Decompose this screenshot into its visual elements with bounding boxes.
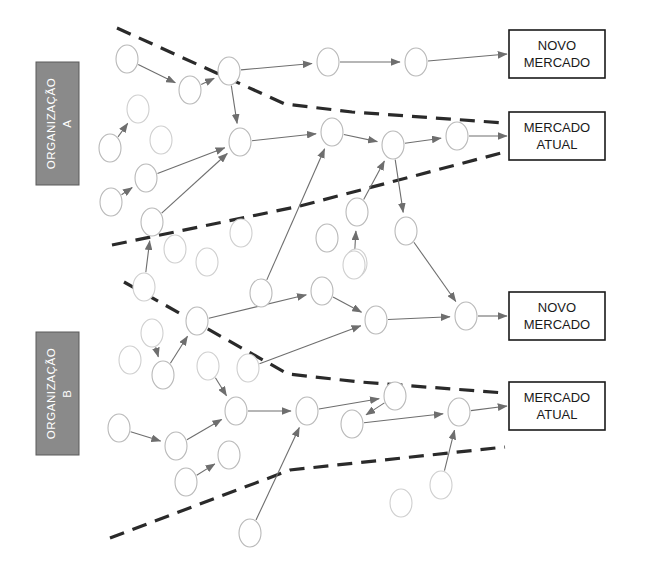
market-box-market-novo-b[interactable]: NOVOMERCADO [509,292,605,340]
market-boxes-group: NOVOMERCADOMERCADOATUALNOVOMERCADOMERCAD… [509,30,605,430]
network-nodes-group [99,45,477,547]
network-node[interactable] [135,164,157,192]
network-node[interactable] [237,354,259,382]
connection-edge [156,347,159,357]
market-box-market-atual-b[interactable]: MERCADOATUAL [509,382,605,430]
connection-edge [319,399,379,409]
network-node[interactable] [341,410,363,438]
network-node[interactable] [108,414,130,442]
market-label-line1: NOVO [538,300,576,315]
connection-edge [364,414,443,423]
connection-edge [414,242,456,301]
network-node[interactable] [150,126,172,154]
connection-edge [138,65,175,83]
connection-edge [215,378,226,396]
network-node[interactable] [133,273,155,301]
connection-edge [471,406,507,411]
network-node[interactable] [229,128,251,156]
connection-edge [364,161,385,200]
organization-letter-text: B [61,389,73,397]
connection-edge [146,241,150,272]
connection-edge [170,336,187,363]
organization-name-text: ORGANIZAÇÃO [45,348,57,440]
connection-edge [241,64,312,70]
network-node[interactable] [365,306,387,334]
organization-letter-text: A [61,119,73,127]
connection-edge [201,78,214,84]
network-node[interactable] [218,57,240,85]
connection-edge [231,86,237,124]
connection-edge [252,134,316,141]
market-label-line2: ATUAL [537,407,578,422]
organization-name-text: ORGANIZAÇÃO [45,78,57,170]
connection-edge [260,326,361,364]
diagram-canvas: ORGANIZAÇÃOAORGANIZAÇÃOB NOVOMERCADOMERC… [0,0,654,569]
network-node[interactable] [152,361,174,389]
divider-line [112,152,505,245]
connection-edge [445,430,455,471]
network-node[interactable] [455,302,477,330]
connection-edge [344,135,378,142]
network-node[interactable] [127,95,149,123]
connection-edge [333,297,362,312]
market-label-line1: NOVO [538,38,576,53]
network-node[interactable] [239,519,261,547]
market-label-line2: ATUAL [537,137,578,152]
connection-edge [395,160,403,213]
network-node[interactable] [225,397,247,425]
connection-edge [256,428,299,520]
network-node[interactable] [250,279,272,307]
network-node[interactable] [382,131,404,159]
network-node[interactable] [175,468,197,496]
network-node[interactable] [405,48,427,76]
divider-lines-group [110,28,505,538]
connection-edge [405,138,441,143]
network-node[interactable] [430,471,452,499]
network-node[interactable] [218,441,240,469]
network-node[interactable] [317,48,339,76]
network-node[interactable] [197,352,219,380]
network-node[interactable] [343,251,365,279]
network-node[interactable] [141,319,163,347]
network-node[interactable] [165,432,187,460]
network-node[interactable] [230,219,252,247]
network-node[interactable] [196,248,218,276]
network-node[interactable] [346,198,368,226]
connection-edge [388,317,450,320]
network-node[interactable] [141,208,163,236]
network-node[interactable] [390,489,412,517]
organization-box [36,332,79,455]
market-label-line1: MERCADO [524,120,590,135]
network-node[interactable] [100,188,122,216]
network-node[interactable] [384,382,406,410]
network-node[interactable] [186,307,208,335]
market-label-line1: MERCADO [524,390,590,405]
market-box-market-novo-a[interactable]: NOVOMERCADO [509,30,605,78]
organization-box [36,62,79,185]
connection-edge [197,464,215,475]
market-label-line2: MERCADO [524,317,590,332]
network-node[interactable] [119,346,141,374]
network-node[interactable] [311,277,333,305]
network-node[interactable] [316,224,338,252]
network-node[interactable] [99,134,121,162]
connection-edge [118,123,128,136]
organization-labels-group: ORGANIZAÇÃOAORGANIZAÇÃOB [36,62,79,455]
organization-label-org-a: ORGANIZAÇÃOA [36,62,79,185]
market-box-market-atual-a[interactable]: MERCADOATUAL [509,112,605,160]
network-node[interactable] [116,45,138,73]
connection-edge [355,231,356,250]
divider-line [117,28,505,123]
connection-edge [162,154,228,214]
network-node[interactable] [296,397,318,425]
network-node[interactable] [321,118,343,146]
network-node[interactable] [395,217,417,245]
network-node[interactable] [179,76,201,104]
network-node[interactable] [164,235,186,263]
market-label-line2: MERCADO [524,55,590,70]
connection-edge [122,188,133,195]
network-node[interactable] [446,122,468,150]
network-node[interactable] [448,398,470,426]
connection-edge [187,419,222,439]
connection-edge [366,403,384,415]
